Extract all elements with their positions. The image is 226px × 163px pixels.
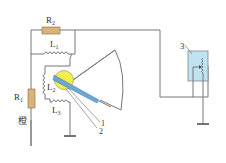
label-r2: R2 <box>46 15 55 26</box>
label-l3: L3 <box>52 105 61 116</box>
label-3: 3 <box>180 41 185 51</box>
inductor-l1 <box>44 52 72 58</box>
resistor-r1 <box>28 89 35 108</box>
circuit-diagram: R2 L1 L2 L3 R1 橙 1 2 3 <box>0 0 226 163</box>
label-orange-wire: 橙 <box>18 115 27 126</box>
label-l1: L1 <box>50 39 59 50</box>
resistor-r2 <box>42 27 60 34</box>
pointer-needle <box>53 75 99 103</box>
label-r1: R1 <box>14 92 23 103</box>
wire-l1-loop <box>72 30 75 54</box>
label-2: 2 <box>99 127 103 136</box>
label-l2: L2 <box>47 82 56 93</box>
gauge-needle-line <box>73 50 115 80</box>
fuel-sensor-box <box>188 51 208 81</box>
